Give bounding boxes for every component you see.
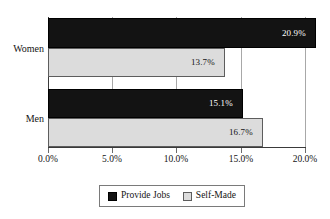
legend-swatch-icon-self-made xyxy=(183,192,192,201)
x-tick-label-5: 5.0% xyxy=(88,155,136,165)
x-tick-label-0: 0.0% xyxy=(24,155,72,165)
bar-label-women-self-made: 13.7% xyxy=(191,58,215,67)
bar-chart: 20.9% 13.7% 15.1% 16.7% Women Men 0.0% 5… xyxy=(0,0,330,219)
legend-label-provide-jobs: Provide Jobs xyxy=(121,191,170,201)
legend-entry-provide-jobs: Provide Jobs xyxy=(108,191,170,201)
category-label-men: Men xyxy=(0,114,44,124)
legend-swatch-icon-provide-jobs xyxy=(108,192,117,201)
category-label-women: Women xyxy=(0,44,44,54)
bar-label-men-provide-jobs: 15.1% xyxy=(209,99,233,108)
x-tick-5 xyxy=(112,148,113,153)
bar-label-women-provide-jobs: 20.9% xyxy=(282,29,306,38)
legend: Provide Jobs Self-Made xyxy=(99,185,245,207)
bar-label-men-self-made: 16.7% xyxy=(229,128,253,137)
legend-entry-self-made: Self-Made xyxy=(183,191,236,201)
x-tick-0 xyxy=(48,148,49,153)
x-axis-line xyxy=(48,147,306,148)
x-tick-label-10: 10.0% xyxy=(152,155,200,165)
x-tick-10 xyxy=(176,148,177,153)
x-tick-label-20: 20.0% xyxy=(281,155,329,165)
x-tick-20 xyxy=(305,148,306,153)
bar-women-provide-jobs xyxy=(48,18,316,48)
legend-label-self-made: Self-Made xyxy=(196,191,236,201)
x-tick-15 xyxy=(241,148,242,153)
x-tick-label-15: 15.0% xyxy=(217,155,265,165)
